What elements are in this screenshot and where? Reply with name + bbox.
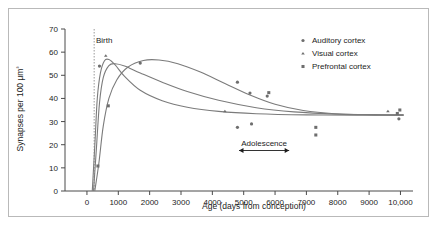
data-point xyxy=(107,104,110,107)
data-point xyxy=(266,94,269,97)
x-tick-label: 3000 xyxy=(172,198,190,207)
x-tick-label: 1000 xyxy=(109,198,127,207)
data-point xyxy=(139,61,142,64)
y-tick-label: 40 xyxy=(49,94,58,103)
birth-label: Birth xyxy=(96,36,112,45)
legend-label: Visual cortex xyxy=(312,49,358,58)
x-tick-label: 0 xyxy=(85,198,90,207)
x-tick-label: 9000 xyxy=(360,198,378,207)
data-point xyxy=(397,117,400,120)
x-tick-label: 8000 xyxy=(329,198,347,207)
y-axis-title: Synapses per 100 μm³ xyxy=(15,67,25,152)
y-tick-label: 10 xyxy=(49,164,58,173)
data-point xyxy=(398,108,401,111)
data-point xyxy=(96,164,99,167)
y-tick-label: 60 xyxy=(49,48,58,57)
data-point xyxy=(248,91,251,94)
data-point xyxy=(236,126,239,129)
data-point xyxy=(314,133,317,136)
y-tick-label: 70 xyxy=(49,25,58,34)
data-point xyxy=(98,64,101,67)
adolescence-annotation: Adolescence xyxy=(239,139,289,153)
y-tick-label: 0 xyxy=(54,187,59,196)
data-point xyxy=(314,126,317,129)
y-tick-label: 30 xyxy=(49,118,58,127)
x-tick-label: 2000 xyxy=(141,198,159,207)
y-tick-label: 20 xyxy=(49,141,58,150)
x-tick-label: 10,000 xyxy=(388,198,413,207)
data-point xyxy=(250,122,253,125)
legend-label: Auditory cortex xyxy=(312,36,365,45)
y-tick-label: 50 xyxy=(49,71,58,80)
data-point xyxy=(236,81,239,84)
synapse-density-chart: 010203040506070 010002000300040005000600… xyxy=(9,9,428,216)
adolescence-label: Adolescence xyxy=(241,139,287,148)
legend-marker-circle xyxy=(301,39,304,42)
data-point xyxy=(396,112,399,115)
x-axis-title: Age (days from conception) xyxy=(202,201,306,211)
legend-label: Prefrontal cortex xyxy=(312,62,371,71)
data-point xyxy=(267,91,270,94)
figure-frame: 010203040506070 010002000300040005000600… xyxy=(8,8,429,217)
legend-marker-square xyxy=(301,65,304,68)
